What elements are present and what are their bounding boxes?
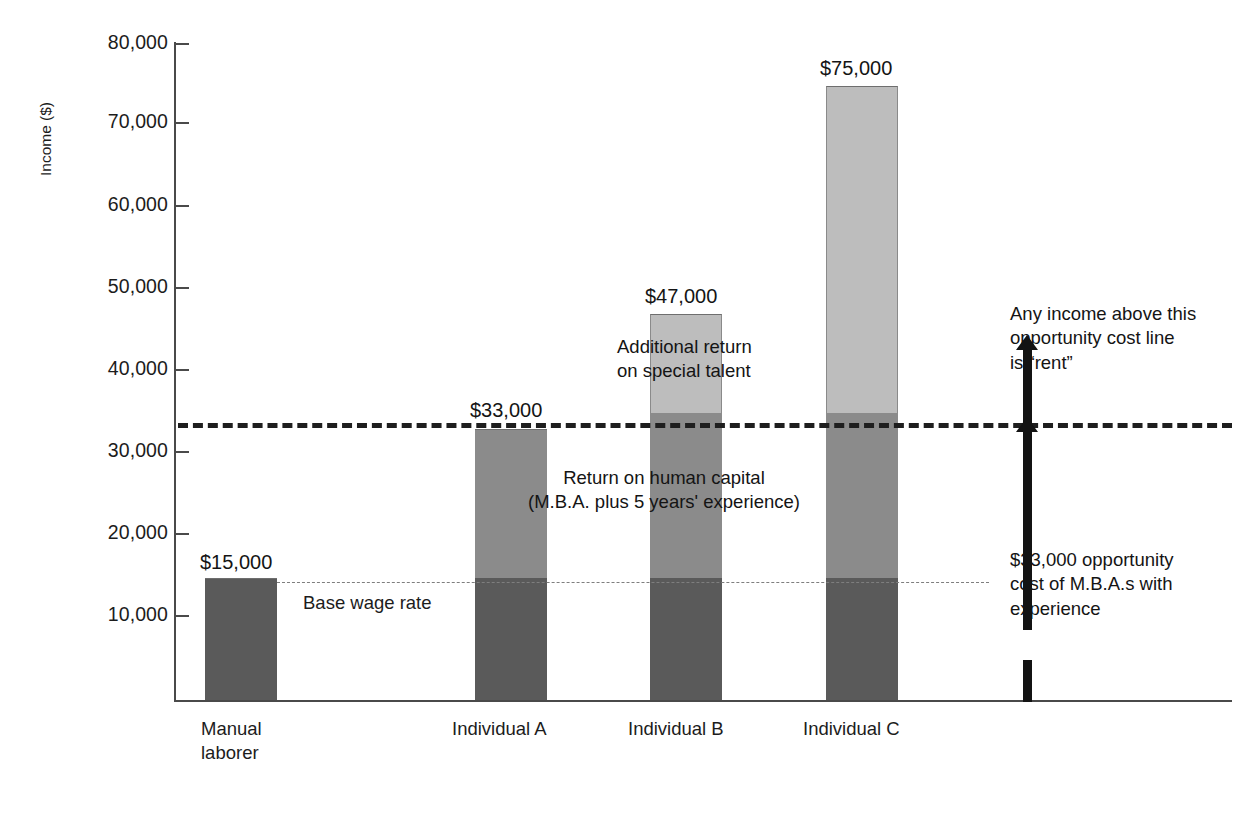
y-tick-mark-50000 bbox=[176, 287, 189, 289]
x-label-individual-b: Individual B bbox=[628, 717, 724, 741]
bar-individual-c[interactable] bbox=[826, 86, 898, 700]
y-tick-30000: 30,000 bbox=[56, 451, 168, 452]
y-tick-mark-30000 bbox=[176, 451, 189, 453]
segment-base-wage bbox=[205, 578, 277, 700]
arrow-shaft-lower bbox=[1023, 430, 1032, 630]
annotation-special-talent: Additional return on special talent bbox=[617, 335, 752, 383]
segment-base-wage bbox=[826, 578, 898, 700]
y-axis-title: Income ($) bbox=[37, 59, 55, 219]
y-tick-50000: 50,000 bbox=[56, 287, 168, 288]
bar-value-individual-b: $47,000 bbox=[645, 286, 717, 306]
opportunity-cost-arrow-group bbox=[1012, 330, 1042, 702]
chart-canvas: Income ($) 80,000 70,000 60,000 50,000 4… bbox=[0, 0, 1258, 824]
annotation-human-capital: Return on human capital (M.B.A. plus 5 y… bbox=[454, 466, 874, 514]
arrow-shaft-tail bbox=[1023, 660, 1032, 702]
x-axis-line bbox=[174, 700, 1232, 702]
y-tick-80000: 80,000 bbox=[56, 43, 168, 44]
y-tick-40000: 40,000 bbox=[56, 369, 168, 370]
y-tick-60000: 60,000 bbox=[56, 205, 168, 206]
y-tick-mark-60000 bbox=[176, 205, 189, 207]
arrow-shaft-upper bbox=[1023, 348, 1032, 424]
y-tick-mark-10000 bbox=[176, 615, 189, 617]
bar-value-individual-c: $75,000 bbox=[820, 58, 892, 78]
opportunity-cost-line bbox=[178, 423, 1232, 428]
segment-base-wage bbox=[650, 578, 722, 700]
base-wage-rate-line bbox=[277, 582, 989, 583]
bar-value-manual-laborer: $15,000 bbox=[200, 552, 272, 572]
bar-value-individual-a: $33,000 bbox=[470, 400, 542, 420]
y-axis-line bbox=[174, 42, 176, 702]
segment-base-wage bbox=[475, 578, 547, 700]
y-tick-70000: 70,000 bbox=[56, 122, 168, 123]
base-wage-rate-label: Base wage rate bbox=[303, 592, 432, 614]
y-tick-mark-20000 bbox=[176, 533, 189, 535]
bar-manual-laborer[interactable] bbox=[205, 578, 277, 700]
x-label-individual-a: Individual A bbox=[452, 717, 547, 741]
y-tick-mark-80000 bbox=[176, 43, 189, 45]
x-label-individual-c: Individual C bbox=[803, 717, 900, 741]
y-tick-mark-40000 bbox=[176, 369, 189, 371]
segment-special-talent bbox=[826, 86, 898, 413]
y-tick-20000: 20,000 bbox=[56, 533, 168, 534]
x-label-manual-laborer: Manual laborer bbox=[201, 717, 262, 764]
y-tick-mark-70000 bbox=[176, 122, 189, 124]
y-tick-10000: 10,000 bbox=[56, 615, 168, 616]
